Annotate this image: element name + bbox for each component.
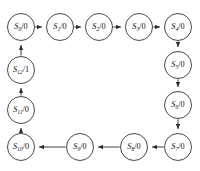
state-node-s3[interactable]: S3/0 <box>126 14 153 41</box>
state-output-value: /0 <box>23 142 29 151</box>
state-node-s10[interactable]: S10/0 <box>8 134 35 161</box>
state-node-label: S1/0 <box>53 22 66 32</box>
figure-canvas: S0/0S1/0S2/0S3/0S4/0S5/0S6/0S7/0S8/0S9/0… <box>0 0 200 171</box>
edges-layer <box>21 27 178 147</box>
state-output-value: /0 <box>22 105 28 114</box>
state-node-s2[interactable]: S2/0 <box>86 14 113 41</box>
state-output-value: /0 <box>139 22 145 31</box>
state-node-s11[interactable]: S11/0 <box>8 97 35 124</box>
state-output-value: /0 <box>80 142 86 151</box>
state-node-label: S0/0 <box>14 22 27 32</box>
state-node-s4[interactable]: S4/0 <box>165 14 192 41</box>
state-node-label: S8/0 <box>127 142 140 152</box>
state-node-s12[interactable]: S12/1 <box>8 57 35 84</box>
state-node-s9[interactable]: S9/0 <box>67 134 94 161</box>
state-node-label: S6/0 <box>171 100 184 110</box>
state-output-value: /0 <box>178 60 184 69</box>
state-node-label: S9/0 <box>73 142 86 152</box>
state-node-s1[interactable]: S1/0 <box>47 14 74 41</box>
state-node-label: S4/0 <box>171 22 184 32</box>
state-output-value: /0 <box>99 22 105 31</box>
state-node-label: S2/0 <box>92 22 105 32</box>
state-node-s7[interactable]: S7/0 <box>165 134 192 161</box>
state-output-value: /0 <box>178 100 184 109</box>
state-output-value: /0 <box>134 142 140 151</box>
state-diagram: S0/0S1/0S2/0S3/0S4/0S5/0S6/0S7/0S8/0S9/0… <box>0 0 200 171</box>
state-node-label: S5/0 <box>171 60 184 70</box>
state-node-s8[interactable]: S8/0 <box>121 134 148 161</box>
state-output-value: /0 <box>60 22 66 31</box>
state-node-s5[interactable]: S5/0 <box>165 52 192 79</box>
state-output-value: /0 <box>21 22 27 31</box>
nodes-layer: S0/0S1/0S2/0S3/0S4/0S5/0S6/0S7/0S8/0S9/0… <box>8 14 192 161</box>
state-output-value: /0 <box>178 142 184 151</box>
state-output-value: /0 <box>178 22 184 31</box>
state-node-label: S7/0 <box>171 142 184 152</box>
state-node-s0[interactable]: S0/0 <box>8 14 35 41</box>
state-output-value: /1 <box>23 65 29 74</box>
state-node-label: S3/0 <box>132 22 145 32</box>
state-node-s6[interactable]: S6/0 <box>165 92 192 119</box>
